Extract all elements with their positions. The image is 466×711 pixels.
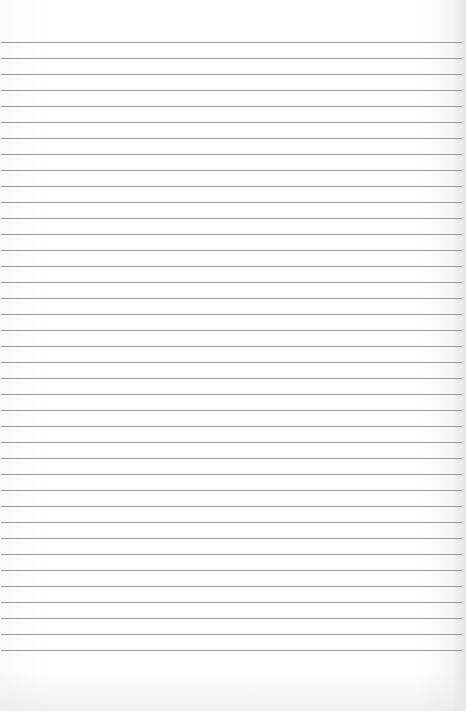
ruled-line <box>1 490 462 491</box>
ruled-line <box>1 362 462 363</box>
ruled-line <box>1 314 462 315</box>
ruled-line <box>1 298 462 299</box>
ruled-line <box>1 170 462 171</box>
lined-paper-sheet <box>0 0 466 711</box>
ruled-line <box>1 282 462 283</box>
ruled-line <box>1 458 462 459</box>
ruled-line <box>1 442 462 443</box>
ruled-line <box>1 506 462 507</box>
ruled-line <box>1 42 462 43</box>
ruled-line <box>1 538 462 539</box>
ruled-line <box>1 410 462 411</box>
ruled-line <box>1 250 462 251</box>
ruled-line <box>1 378 462 379</box>
ruled-line <box>1 570 462 571</box>
ruled-line <box>1 522 462 523</box>
ruled-line <box>1 58 462 59</box>
ruled-line <box>1 554 462 555</box>
ruled-line <box>1 106 462 107</box>
ruled-line <box>1 202 462 203</box>
ruled-line <box>1 90 462 91</box>
ruled-line <box>1 602 462 603</box>
ruled-line <box>1 634 462 635</box>
ruled-line <box>1 474 462 475</box>
ruled-line <box>1 394 462 395</box>
ruled-line <box>1 650 462 651</box>
ruled-line <box>1 618 462 619</box>
ruled-line <box>1 426 462 427</box>
ruled-line <box>1 330 462 331</box>
ruled-line <box>1 138 462 139</box>
ruled-line <box>1 218 462 219</box>
ruled-line <box>1 74 462 75</box>
ruled-line <box>1 586 462 587</box>
ruled-line <box>1 234 462 235</box>
ruled-line <box>1 154 462 155</box>
ruled-line <box>1 122 462 123</box>
ruled-line <box>1 266 462 267</box>
ruled-line <box>1 346 462 347</box>
ruled-line <box>1 186 462 187</box>
bottom-shadow <box>0 671 466 711</box>
